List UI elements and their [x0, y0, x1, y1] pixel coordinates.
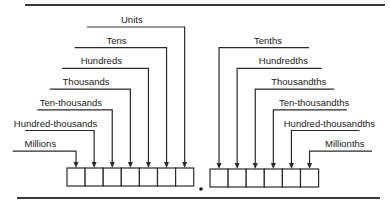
place-label: Hundredths	[259, 55, 308, 66]
digit-box-decimal	[301, 169, 319, 187]
arrow-down-icon	[253, 163, 258, 169]
arrow-down-icon	[128, 162, 133, 168]
digit-box-decimal	[210, 169, 228, 187]
arrow-down-icon	[146, 162, 151, 168]
digit-box-whole	[103, 168, 121, 186]
arrow-down-icon	[164, 162, 169, 168]
place-label: Ten-thousandths	[279, 97, 349, 108]
digit-box-decimal	[282, 169, 300, 187]
decimal-point	[199, 187, 203, 191]
arrow-down-icon	[182, 162, 187, 168]
arrow-down-icon	[74, 162, 79, 168]
arrow-down-icon	[92, 162, 97, 168]
place-label: Hundreds	[81, 55, 122, 66]
arrow-down-icon	[217, 163, 222, 169]
place-value-diagram: UnitsTensHundredsThousandsTen-thousandsH…	[0, 0, 390, 205]
arrow-down-icon	[235, 163, 240, 169]
place-label: Millionths	[325, 138, 365, 149]
place-leader-decimal: Millionths	[307, 138, 372, 169]
arrow-down-icon	[271, 163, 276, 169]
whole-number-places: UnitsTensHundredsThousandsTen-thousandsH…	[13, 14, 194, 186]
place-label: Tenths	[254, 35, 282, 46]
arrow-down-icon	[307, 163, 312, 169]
digit-box-whole	[67, 168, 85, 186]
leader-line	[310, 151, 372, 164]
digit-box-decimal	[228, 169, 246, 187]
digit-box-whole	[158, 168, 176, 186]
place-label: Thousands	[63, 76, 110, 87]
digit-box-whole	[176, 168, 194, 186]
place-label: Tens	[107, 35, 127, 46]
leader-line	[13, 151, 76, 163]
place-label: Millions	[24, 138, 56, 149]
place-label: Ten-thousands	[40, 97, 103, 108]
place-label: Thousandths	[271, 76, 326, 87]
arrow-down-icon	[289, 163, 294, 169]
place-label: Hundred-thousandths	[284, 118, 376, 129]
place-leader-decimal: Hundredths	[235, 55, 322, 169]
place-leader-whole: Units	[87, 14, 187, 168]
digit-box-whole	[121, 168, 139, 186]
digit-box-whole	[85, 168, 103, 186]
place-label: Units	[121, 14, 143, 25]
digit-box-decimal	[264, 169, 282, 187]
place-leader-whole: Millions	[13, 138, 79, 168]
arrow-down-icon	[110, 162, 115, 168]
decimal-places: TenthsHundredthsThousandthsTen-thousandt…	[210, 35, 375, 187]
digit-box-whole	[139, 168, 157, 186]
place-label: Hundred-thousands	[14, 118, 98, 129]
digit-box-decimal	[246, 169, 264, 187]
